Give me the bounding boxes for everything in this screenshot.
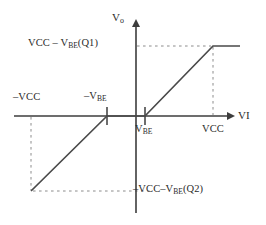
tick-label-pos-vbe: VBE	[135, 124, 152, 136]
tick-label-pos-vbe-main: V	[135, 123, 143, 134]
guide-lines	[31, 46, 213, 191]
bottom-saturation-label: –VCC–VBE(Q2)	[133, 184, 203, 196]
tick-label-pos-vcc: VCC	[202, 124, 224, 135]
top-saturation-label: VCC – VBE(Q1)	[28, 38, 98, 50]
tick-label-neg-vbe-main: –V	[84, 90, 97, 101]
y-axis-label-sub: o	[120, 16, 124, 25]
y-axis-label: Vo	[112, 12, 124, 25]
tick-label-pos-vbe-sub: BE	[143, 127, 153, 136]
tick-label-neg-vcc-main: –VCC	[13, 91, 40, 102]
x-axis-label: VI	[238, 110, 250, 121]
bottom-saturation-pre: –VCC–V	[133, 183, 173, 194]
tick-label-neg-vbe: –VBE	[84, 91, 107, 103]
top-saturation-post: (Q1)	[78, 37, 98, 48]
x-axis-label-main: VI	[238, 109, 250, 121]
tick-label-neg-vcc: –VCC	[13, 92, 40, 103]
tick-label-pos-vcc-main: VCC	[202, 123, 224, 134]
bottom-saturation-post: (Q2)	[183, 183, 203, 194]
top-saturation-sub: BE	[68, 41, 78, 50]
y-axis-label-main: V	[112, 11, 120, 23]
transfer-characteristic-figure: Vo VI VCC – VBE(Q1) –VCC–VBE(Q2) –VCC –V…	[0, 0, 266, 225]
bottom-saturation-sub: BE	[173, 187, 183, 196]
tick-label-neg-vbe-sub: BE	[97, 94, 107, 103]
top-saturation-pre: VCC – V	[28, 37, 68, 48]
